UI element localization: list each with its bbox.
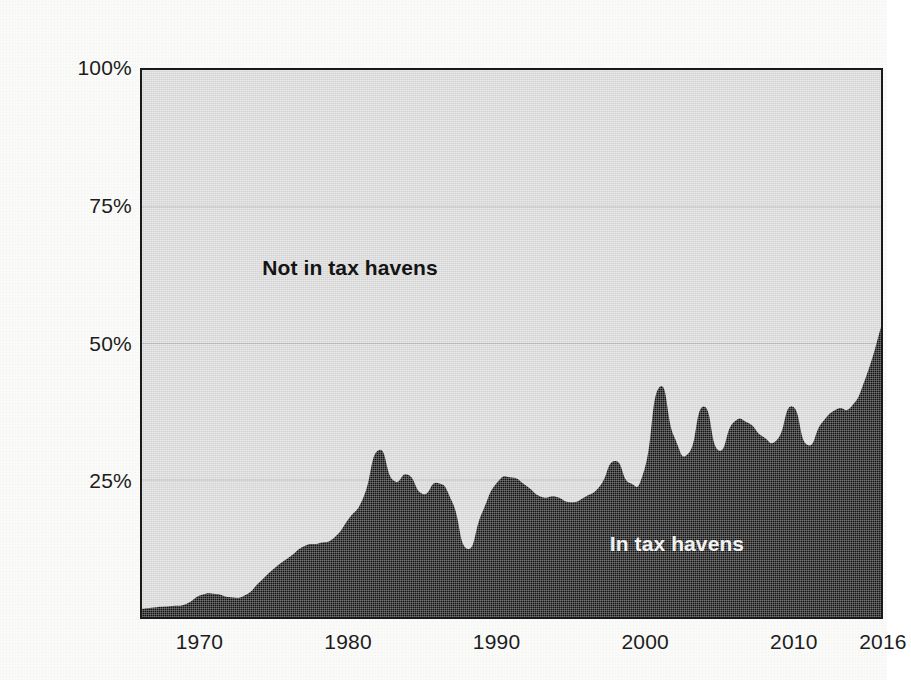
x-tick-label-1990: 1990: [473, 630, 521, 654]
series-label-in-tax-havens: In tax havens: [610, 532, 744, 556]
x-tick-label-2016: 2016: [859, 630, 907, 654]
series-label-not-in-tax-havens: Not in tax havens: [262, 256, 438, 280]
stacked-area-chart: 100% 75% 50% 25% Not in tax havens In ta…: [40, 16, 911, 680]
gridlines: [142, 207, 881, 481]
x-tick-label-2010: 2010: [770, 630, 818, 654]
area-series-svg: [142, 70, 881, 617]
y-tick-label-25: 25%: [46, 469, 132, 493]
in-tax-havens-area-path: [142, 327, 881, 617]
x-tick-label-1980: 1980: [324, 630, 372, 654]
x-tick-label-2000: 2000: [621, 630, 669, 654]
y-tick-label-50: 50%: [46, 332, 132, 356]
y-axis: 100% 75% 50% 25%: [40, 16, 132, 680]
x-axis: 1970 1980 1990 2000 2010 2016: [40, 630, 911, 670]
y-tick-label-75: 75%: [46, 194, 132, 218]
x-tick-label-1970: 1970: [176, 630, 224, 654]
y-tick-label-100: 100%: [46, 56, 132, 80]
plot-area: Not in tax havens In tax havens: [140, 68, 883, 619]
